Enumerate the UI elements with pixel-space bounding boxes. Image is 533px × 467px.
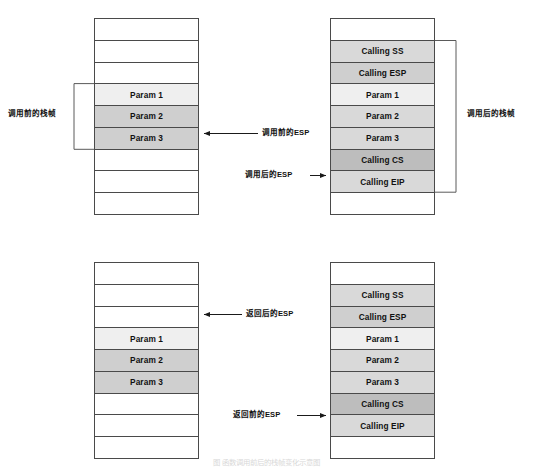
top-left-cell-param-1: Param 1 [95,84,198,106]
bottom-right-cell-empty-8 [331,437,434,458]
top-left-cell-empty-7 [95,171,198,193]
bottom-left-cell-empty-7 [95,415,198,437]
label-esp-before-return: 返回前的ESP [233,411,280,419]
bottom-left-cell-param-1: Param 1 [95,328,198,350]
bottom-left-cell-empty-0 [95,263,198,285]
bottom-left-cell-empty-1 [95,285,198,307]
top-left-cell-empty-6 [95,150,198,172]
bottom-left-cell-param-2: Param 2 [95,350,198,372]
top-left-cell-param-3: Param 3 [95,128,198,150]
top-right-cell-param-2: Param 2 [331,106,434,128]
top-left-stack: Param 1Param 2Param 3 [94,18,199,215]
bottom-right-cell-calling-eip: Calling EIP [331,415,434,437]
top-right-cell-empty-8 [331,193,434,214]
label-frame-after-call: 调用后的栈帧 [467,110,515,118]
top-left-cell-empty-8 [95,193,198,214]
label-esp-after-call: 调用后的ESP [245,171,292,179]
bottom-left-stack: Param 1Param 2Param 3 [94,262,199,459]
top-right-cell-empty-0 [331,19,434,41]
top-left-cell-param-2: Param 2 [95,106,198,128]
bottom-right-cell-param-2: Param 2 [331,350,434,372]
bottom-right-cell-calling-ss: Calling SS [331,285,434,307]
figure-caption: 图 函数调用前后的栈帧变化示意图 [0,459,533,466]
top-right-cell-calling-eip: Calling EIP [331,171,434,193]
bottom-left-cell-empty-8 [95,437,198,458]
bottom-right-cell-calling-esp: Calling ESP [331,307,434,329]
bottom-right-cell-param-1: Param 1 [331,328,434,350]
top-right-cell-calling-esp: Calling ESP [331,63,434,85]
top-right-cell-param-1: Param 1 [331,84,434,106]
label-esp-before-call: 调用前的ESP [262,129,309,137]
top-left-cell-empty-0 [95,19,198,41]
top-right-cell-calling-ss: Calling SS [331,41,434,63]
bottom-right-cell-calling-cs: Calling CS [331,394,434,416]
bottom-left-cell-param-3: Param 3 [95,372,198,394]
top-right-cell-calling-cs: Calling CS [331,150,434,172]
bracket-frame-after-call [435,41,456,193]
bottom-right-cell-empty-0 [331,263,434,285]
top-right-cell-param-3: Param 3 [331,128,434,150]
bottom-left-cell-empty-2 [95,307,198,329]
bottom-left-cell-empty-6 [95,394,198,416]
bracket-frame-before-call [74,84,94,150]
top-left-cell-empty-1 [95,41,198,63]
label-frame-before-call: 调用前的栈帧 [8,110,56,118]
top-left-cell-empty-2 [95,63,198,85]
label-esp-after-return: 返回后的ESP [246,310,293,318]
bottom-right-cell-param-3: Param 3 [331,372,434,394]
top-right-stack: Calling SSCalling ESPParam 1Param 2Param… [330,18,435,215]
bottom-right-stack: Calling SSCalling ESPParam 1Param 2Param… [330,262,435,459]
